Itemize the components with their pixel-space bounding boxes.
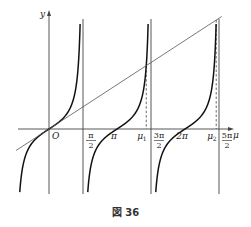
- five_pi_half-label-num: 5π: [222, 131, 232, 140]
- x-axis-label: μ: [233, 130, 239, 140]
- axis-tick-labels: π2πμ13π22πμ25π2: [86, 131, 232, 150]
- pi_half-label-num: π: [88, 131, 93, 140]
- five_pi_half-label-den: 2: [224, 141, 229, 150]
- three_pi_half-label-num: 3π: [154, 131, 164, 140]
- tan-branch: [20, 24, 80, 192]
- pi-label: π: [110, 131, 118, 141]
- intersection-dashed-lines: [146, 20, 216, 129]
- vertical-asymptotes: [83, 19, 219, 194]
- two_pi-label: 2π: [175, 131, 189, 141]
- y-axis-label: y: [39, 9, 46, 19]
- y-axis-arrow-icon: [47, 10, 51, 16]
- origin-label: O: [52, 131, 60, 141]
- line-y-equals-mu: [16, 16, 222, 150]
- tan-branch: [156, 24, 216, 192]
- mu1-label-sub: 1: [143, 135, 147, 142]
- mu2-label-sub: 2: [213, 135, 217, 142]
- three_pi_half-label-den: 2: [156, 141, 161, 150]
- tan-mu-equals-mu-diagram: π2πμ13π22πμ25π2 y O μ: [0, 0, 251, 227]
- figure-caption: 図 36: [0, 204, 251, 219]
- pi_half-label-den: 2: [88, 141, 93, 150]
- tan-branch: [88, 24, 148, 192]
